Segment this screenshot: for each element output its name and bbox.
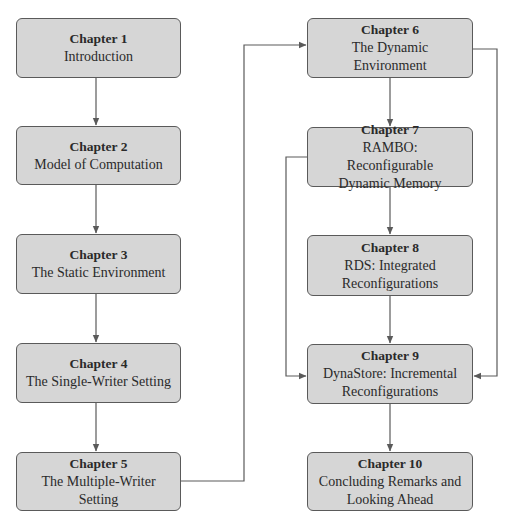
- chapter-title: The Dynamic Environment: [308, 39, 472, 75]
- chapter-title: The Static Environment: [26, 264, 172, 282]
- chapter-number: Chapter 6: [361, 21, 419, 39]
- chapter-number: Chapter 3: [70, 246, 128, 264]
- chapter-number: Chapter 9: [361, 347, 419, 365]
- chapter-number: Chapter 1: [70, 30, 128, 48]
- chapter-title: Introduction: [58, 48, 139, 66]
- node-chapter-6: Chapter 6 The Dynamic Environment: [307, 18, 473, 78]
- chapter-title: Model of Computation: [28, 156, 168, 174]
- chapter-title: The Single-Writer Setting: [20, 373, 177, 391]
- chapter-number: Chapter 5: [70, 455, 128, 473]
- edge-ch5-ch6: [181, 45, 306, 481]
- node-chapter-8: Chapter 8 RDS: Integrated Reconfiguratio…: [307, 235, 473, 296]
- node-chapter-1: Chapter 1 Introduction: [16, 18, 181, 78]
- edge-ch7-ch9: [286, 157, 307, 376]
- chapter-dependency-diagram: Chapter 1 Introduction Chapter 2 Model o…: [0, 0, 513, 527]
- chapter-title: Concluding Remarks and Looking Ahead: [309, 473, 471, 509]
- node-chapter-10: Chapter 10 Concluding Remarks and Lookin…: [307, 452, 473, 511]
- chapter-title: RAMBO: Reconfigurable Dynamic Memory: [314, 139, 466, 193]
- chapter-number: Chapter 2: [70, 138, 128, 156]
- chapter-number: Chapter 4: [70, 355, 128, 373]
- node-chapter-3: Chapter 3 The Static Environment: [16, 234, 181, 294]
- node-chapter-7: Chapter 7 RAMBO: Reconfigurable Dynamic …: [307, 127, 473, 187]
- chapter-number: Chapter 10: [358, 455, 423, 473]
- chapter-number: Chapter 8: [361, 239, 419, 257]
- node-chapter-2: Chapter 2 Model of Computation: [16, 126, 181, 185]
- chapter-title: RDS: Integrated Reconfigurations: [327, 257, 454, 293]
- edge-ch6-ch9: [473, 49, 497, 376]
- chapter-number: Chapter 7: [361, 121, 419, 139]
- chapter-title: The Multiple-Writer Setting: [17, 473, 180, 509]
- node-chapter-4: Chapter 4 The Single-Writer Setting: [16, 343, 181, 403]
- chapter-title: DynaStore: Incremental Reconfigurations: [314, 365, 466, 401]
- node-chapter-5: Chapter 5 The Multiple-Writer Setting: [16, 452, 181, 511]
- node-chapter-9: Chapter 9 DynaStore: Incremental Reconfi…: [307, 344, 473, 404]
